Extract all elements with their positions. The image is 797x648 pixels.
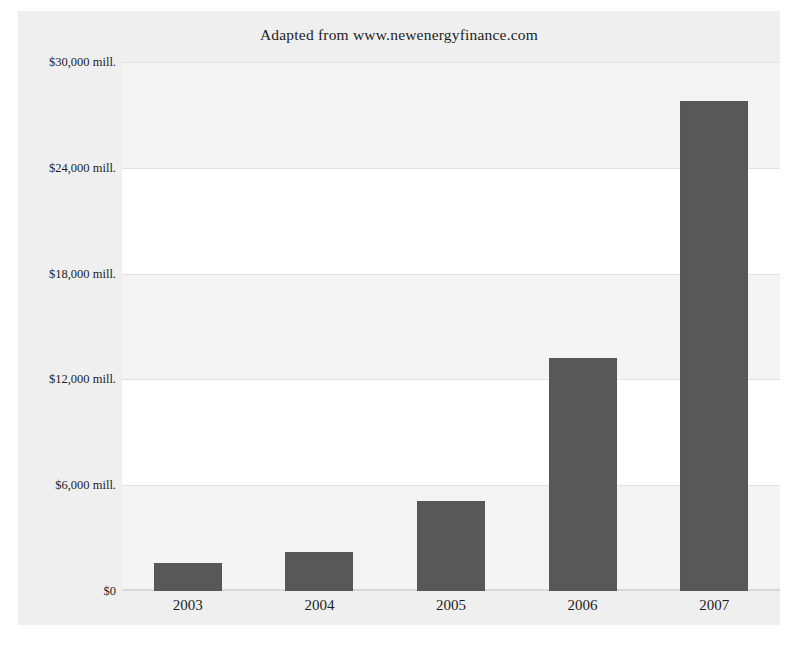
y-axis-tick-label: $30,000 mill. bbox=[49, 56, 122, 69]
bar bbox=[154, 563, 222, 591]
chart-container: Adapted from www.newenergyfinance.com $0… bbox=[0, 0, 797, 648]
bar bbox=[417, 501, 485, 591]
x-axis-tick-label: 2007 bbox=[648, 597, 780, 614]
y-axis-tick-label: $24,000 mill. bbox=[49, 162, 122, 175]
bars-layer bbox=[122, 62, 780, 591]
y-axis: $0$6,000 mill.$12,000 mill.$18,000 mill.… bbox=[18, 62, 122, 591]
bar bbox=[549, 358, 617, 591]
x-axis-tick-label: 2005 bbox=[385, 597, 517, 614]
bar bbox=[680, 101, 748, 591]
plot-area bbox=[122, 62, 780, 591]
chart-title: Adapted from www.newenergyfinance.com bbox=[18, 26, 780, 44]
x-axis-tick-label: 2006 bbox=[517, 597, 649, 614]
frame-bottom-strip bbox=[18, 625, 780, 648]
y-axis-tick-label: $18,000 mill. bbox=[49, 268, 122, 281]
y-axis-tick-label: $6,000 mill. bbox=[55, 479, 122, 492]
x-axis-tick-label: 2004 bbox=[254, 597, 386, 614]
y-axis-tick-label: $0 bbox=[104, 585, 123, 598]
bar bbox=[285, 552, 353, 591]
x-axis: 20032004200520062007 bbox=[122, 593, 780, 627]
y-axis-tick-label: $12,000 mill. bbox=[49, 373, 122, 386]
x-axis-tick-label: 2003 bbox=[122, 597, 254, 614]
